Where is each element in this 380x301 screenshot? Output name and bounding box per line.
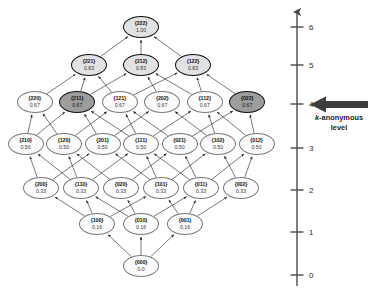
node-value: 0.67 (115, 103, 125, 108)
node-label: {222} (135, 21, 148, 26)
lattice-node-021[interactable]: {021}0.50 (162, 133, 198, 155)
node-label: {122} (187, 59, 200, 64)
node-value: 0.67 (72, 103, 82, 108)
node-value: 0.16 (92, 225, 102, 230)
lattice-node-222[interactable]: {222}1.00 (123, 16, 159, 38)
node-label: {220} (28, 96, 41, 101)
annotation-anonymous: -anonymous (319, 113, 363, 122)
node-value: 0.33 (236, 189, 246, 194)
lattice-node-221[interactable]: {221}0.83 (71, 54, 107, 76)
node-value: 0.50 (251, 145, 261, 150)
annotation-line-1: k-anonymous (300, 113, 378, 123)
node-label: {021} (173, 138, 186, 143)
node-value: 0.67 (200, 103, 210, 108)
node-label: {010} (135, 218, 148, 223)
node-label: {211} (71, 96, 83, 101)
lattice-node-211[interactable]: {211}0.67 (59, 91, 95, 113)
node-label: {221} (83, 59, 96, 64)
axis-tick-label-6: 6 (309, 23, 313, 32)
lattice-node-100[interactable]: {100}0.16 (79, 213, 115, 235)
node-label: {202} (156, 96, 169, 101)
node-value: 0.50 (97, 145, 107, 150)
node-value: 0.33 (196, 189, 206, 194)
lattice-node-102[interactable]: {102}0.50 (200, 133, 236, 155)
lattice-node-010[interactable]: {010}0.16 (123, 213, 159, 235)
node-label: {000} (135, 260, 148, 265)
lattice-node-120[interactable]: {120}0.50 (46, 133, 82, 155)
lattice-node-011[interactable]: {011}0.33 (183, 177, 219, 199)
lattice-node-122[interactable]: {122}0.83 (175, 54, 211, 76)
node-value: 0.33 (76, 189, 86, 194)
lattice-node-022[interactable]: {022}0.67 (229, 91, 265, 113)
node-label: {111} (135, 138, 147, 143)
lattice-node-121[interactable]: {121}0.67 (102, 91, 138, 113)
node-label: {120} (58, 138, 71, 143)
lattice-node-020[interactable]: {020}0.33 (103, 177, 139, 199)
lattice-node-202[interactable]: {202}0.67 (144, 91, 180, 113)
node-value: 0.16 (180, 225, 190, 230)
node-value: 0.50 (20, 145, 30, 150)
node-label: {102} (212, 138, 225, 143)
lattice-node-012[interactable]: {012}0.50 (239, 133, 275, 155)
node-label: {121} (113, 96, 126, 101)
node-value: 0.83 (188, 66, 198, 71)
node-label: {011} (195, 182, 207, 187)
node-label: {020} (115, 182, 128, 187)
node-label: {002} (235, 182, 248, 187)
axis-tick-label-3: 3 (309, 144, 313, 153)
axis-tick-label-1: 1 (309, 228, 313, 237)
node-value: 0.50 (59, 145, 69, 150)
node-label: {210} (19, 138, 32, 143)
annotation-line-2: level (300, 123, 378, 133)
node-value: 0.67 (157, 103, 167, 108)
node-label: {022} (241, 96, 254, 101)
node-label: {110} (75, 182, 87, 187)
node-value: 0.83 (136, 66, 146, 71)
lattice-node-212[interactable]: {212}0.83 (123, 54, 159, 76)
node-value: 0.0 (137, 267, 144, 272)
node-value: 0.67 (30, 103, 40, 108)
lattice-figure: {222}1.00{221}0.83{212}0.83{122}0.83{220… (0, 0, 380, 301)
node-label: {012} (250, 138, 263, 143)
node-value: 0.33 (156, 189, 166, 194)
axis-tick-label-0: 0 (309, 271, 313, 280)
lattice-node-000[interactable]: {000}0.0 (123, 255, 159, 277)
node-label: {200} (35, 182, 48, 187)
k-anonymous-annotation: k-anonymous level (300, 96, 378, 133)
lattice-node-001[interactable]: {001}0.16 (167, 213, 203, 235)
node-value: 0.33 (116, 189, 126, 194)
node-value: 0.16 (136, 225, 146, 230)
node-label: {100} (91, 218, 104, 223)
lattice-node-111[interactable]: {111}0.50 (123, 133, 159, 155)
axis-tick-label-2: 2 (309, 186, 313, 195)
lattice-node-201[interactable]: {201}0.50 (85, 133, 121, 155)
node-label: {001} (179, 218, 192, 223)
node-value: 0.33 (36, 189, 46, 194)
lattice-node-110[interactable]: {110}0.33 (63, 177, 99, 199)
node-value: 0.67 (242, 103, 252, 108)
node-label: {112} (199, 96, 211, 101)
lattice-node-112[interactable]: {112}0.67 (187, 91, 223, 113)
node-label: {201} (96, 138, 109, 143)
axis-tick-label-5: 5 (309, 61, 313, 70)
node-value: 1.00 (136, 28, 146, 33)
node-value: 0.50 (174, 145, 184, 150)
left-arrow-icon (310, 96, 368, 113)
lattice-node-210[interactable]: {210}0.50 (8, 133, 44, 155)
lattice-node-002[interactable]: {002}0.33 (223, 177, 259, 199)
node-value: 0.50 (136, 145, 146, 150)
node-label: {212} (135, 59, 148, 64)
lattice-node-220[interactable]: {220}0.67 (17, 91, 53, 113)
lattice-node-200[interactable]: {200}0.33 (23, 177, 59, 199)
node-value: 0.83 (84, 66, 94, 71)
lattice-node-101[interactable]: {101}0.33 (143, 177, 179, 199)
node-value: 0.50 (213, 145, 223, 150)
node-label: {101} (155, 182, 168, 187)
